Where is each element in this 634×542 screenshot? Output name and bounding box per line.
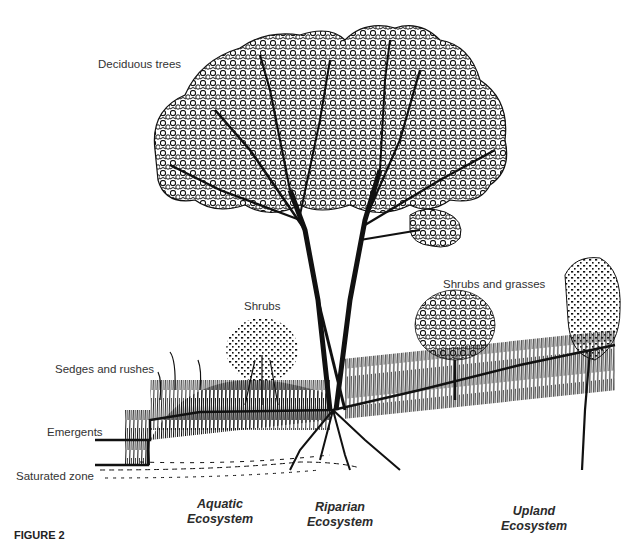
label-sedges-and-rushes: Sedges and rushes <box>55 363 154 375</box>
zone-upland-ecosystem: Upland Ecosystem <box>484 504 584 534</box>
zone-upland-line2: Ecosystem <box>484 519 584 534</box>
zone-riparian-ecosystem: Riparian Ecosystem <box>290 500 390 530</box>
label-shrubs: Shrubs <box>244 300 280 312</box>
zone-riparian-line2: Ecosystem <box>290 515 390 530</box>
zone-aquatic-line1: Aquatic <box>170 497 270 512</box>
zone-riparian-line1: Riparian <box>290 500 390 515</box>
figure-caption: FIGURE 2 <box>14 529 65 541</box>
zone-aquatic-line2: Ecosystem <box>170 512 270 527</box>
zone-upland-line1: Upland <box>484 504 584 519</box>
zone-aquatic-ecosystem: Aquatic Ecosystem <box>170 497 270 527</box>
label-saturated-zone: Saturated zone <box>16 470 94 482</box>
label-emergents: Emergents <box>47 426 103 438</box>
figure-number: FIGURE 2 <box>14 529 65 541</box>
aquatic-vegetation <box>125 352 330 465</box>
label-shrubs-and-grasses: Shrubs and grasses <box>443 278 545 290</box>
label-deciduous-trees: Deciduous trees <box>98 58 181 70</box>
